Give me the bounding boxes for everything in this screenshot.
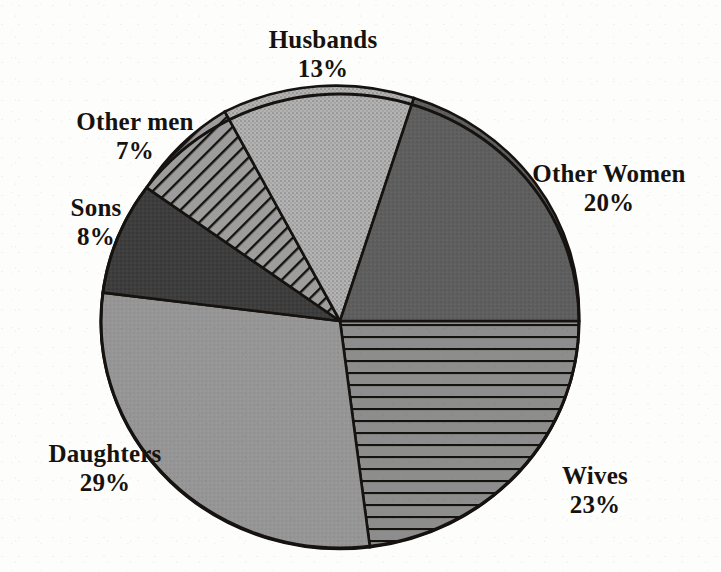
pie-label-other-women-value: 20% [498,189,720,218]
pie-label-sons-value: 8% [26,223,166,252]
pie-label-wives-value: 23% [520,491,670,520]
pie-label-sons: Sons 8% [26,194,166,251]
pie-label-daughters: Daughters 29% [0,440,210,497]
pie-label-husbands: Husbands 13% [218,26,428,83]
pie-label-other-men-name: Other men [40,108,230,137]
pie-label-wives-name: Wives [520,462,670,491]
pie-label-other-women: Other Women 20% [498,160,720,217]
pie-label-daughters-value: 29% [0,469,210,498]
pie-label-husbands-value: 13% [218,55,428,84]
pie-label-other-men: Other men 7% [40,108,230,165]
pie-chart-figure: Husbands 13% Other men 7% Sons 8% Daught… [0,0,721,572]
pie-label-other-women-name: Other Women [498,160,720,189]
pie-label-wives: Wives 23% [520,462,670,519]
pie-slice-daughters[interactable] [101,293,370,549]
pie-label-sons-name: Sons [26,194,166,223]
pie-label-other-men-value: 7% [40,137,230,166]
pie-label-husbands-name: Husbands [218,26,428,55]
pie-label-daughters-name: Daughters [0,440,210,469]
